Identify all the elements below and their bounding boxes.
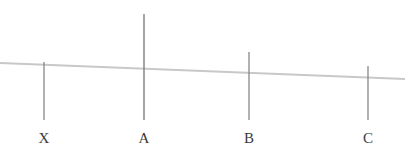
diagram-canvas: X A B C	[0, 0, 405, 153]
baseline-line	[0, 63, 405, 79]
tick-label-b: B	[244, 131, 254, 146]
diagram-graphic	[0, 0, 405, 153]
tick-label-x: X	[39, 131, 50, 146]
tick-label-a: A	[139, 131, 150, 146]
tick-label-c: C	[363, 131, 373, 146]
